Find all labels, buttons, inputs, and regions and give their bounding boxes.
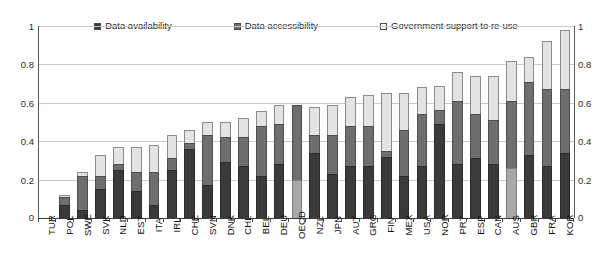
x-axis-label-cell: AUS <box>502 224 520 268</box>
bar-stack <box>309 107 320 218</box>
bar-segment <box>327 135 338 173</box>
bar-column <box>288 26 306 218</box>
bar-segment <box>560 30 571 90</box>
bar-column <box>234 26 252 218</box>
x-axis-label-cell: SWE <box>74 224 92 268</box>
bar-stack <box>434 86 445 218</box>
bar-segment <box>542 166 553 218</box>
bar-segment <box>381 93 392 151</box>
bar-stack <box>113 147 124 218</box>
bar-segment <box>506 101 517 168</box>
bar-segment <box>59 197 70 205</box>
bar-segment <box>524 82 535 155</box>
x-axis-label-cell: CAN <box>484 224 502 268</box>
bar-stack <box>470 76 481 218</box>
x-axis-label-cell: NOR <box>431 224 449 268</box>
bar-column <box>74 26 92 218</box>
bar-stack <box>381 93 392 218</box>
x-axis-label-cell: PRT <box>449 224 467 268</box>
x-axis-label-cell: SVK <box>92 224 110 268</box>
bar-column <box>502 26 520 218</box>
bar-segment <box>238 137 249 166</box>
x-axis-label-cell: SVN <box>199 224 217 268</box>
bar-segment <box>309 107 320 136</box>
bar-stack <box>131 147 142 218</box>
bar-segment <box>452 164 463 218</box>
bar-stack <box>202 122 213 218</box>
bar-segment <box>399 176 410 218</box>
bar-stack <box>220 122 231 218</box>
x-axis-label-cell: NLD <box>109 224 127 268</box>
x-axis-label-cell: TUR <box>38 224 56 268</box>
x-axis-label-cell: DNK <box>217 224 235 268</box>
bar-segment <box>95 155 106 176</box>
bar-segment <box>524 155 535 218</box>
x-axis-label-cell: USA <box>413 224 431 268</box>
bar-segment <box>167 135 178 158</box>
bar-segment <box>452 101 463 164</box>
bar-segment <box>184 149 195 218</box>
bar-column <box>431 26 449 218</box>
bar-segment <box>149 205 160 218</box>
bar-stack <box>184 130 195 218</box>
bar-segment <box>417 166 428 218</box>
x-axis-label-cell: KOR <box>556 224 574 268</box>
bar-column <box>556 26 574 218</box>
y-axis-left-tick-02: 0.2 <box>21 176 34 186</box>
y-axis-left-tick-06: 0.6 <box>21 99 34 109</box>
bar-column <box>324 26 342 218</box>
bar-segment <box>434 124 445 218</box>
bar-stack <box>417 87 428 218</box>
bar-segment <box>292 105 303 180</box>
bar-segment <box>149 145 160 172</box>
y-axis-right-tick-08: 0.8 <box>578 60 591 70</box>
bar-segment <box>417 87 428 114</box>
bar-column <box>145 26 163 218</box>
bar-stack <box>327 105 338 218</box>
x-axis-label-cell: GRC <box>359 224 377 268</box>
bar-stack <box>363 95 374 218</box>
bar-segment <box>399 130 410 176</box>
bar-segment <box>524 57 535 82</box>
bar-segment <box>274 105 285 124</box>
bar-segment <box>220 137 231 162</box>
x-axis-label-cell: FIN <box>377 224 395 268</box>
bar-segment <box>488 120 499 164</box>
bar-segment <box>434 110 445 123</box>
bar-segment <box>131 191 142 218</box>
bar-column <box>127 26 145 218</box>
bar-stack <box>488 76 499 218</box>
bar-segment <box>488 164 499 218</box>
y-axis-right-line <box>574 26 575 218</box>
bar-segment <box>470 114 481 158</box>
bar-segment <box>399 93 410 129</box>
bar-segment <box>202 185 213 218</box>
bar-segment <box>256 176 267 218</box>
x-axis-label-cell: GBR <box>520 224 538 268</box>
bar-stack <box>95 155 106 218</box>
bar-column <box>395 26 413 218</box>
y-axis-right-tick-04: 0.4 <box>578 137 591 147</box>
bar-segment <box>256 126 267 176</box>
stacked-bar-chart: Data availability Data accessibility Gov… <box>0 0 612 269</box>
bar-stack <box>560 30 571 218</box>
bar-column <box>306 26 324 218</box>
x-axis-label-cell: POL <box>56 224 74 268</box>
x-axis-label-cell: CHE <box>181 224 199 268</box>
bar-column <box>181 26 199 218</box>
bar-column <box>484 26 502 218</box>
bar-stack <box>149 145 160 218</box>
y-axis-left-tick-08: 0.8 <box>21 60 34 70</box>
bar-segment <box>452 72 463 101</box>
y-axis-left-tick-1: 1 <box>29 22 34 32</box>
bar-segment <box>560 153 571 218</box>
bar-column <box>217 26 235 218</box>
plot-area <box>38 26 574 218</box>
bar-segment <box>309 135 320 152</box>
bar-segment <box>202 122 213 135</box>
bar-segment <box>363 166 374 218</box>
bar-column <box>252 26 270 218</box>
y-axis-right-tick-1: 1 <box>578 22 583 32</box>
bar-column <box>199 26 217 218</box>
bar-segment <box>309 153 320 218</box>
